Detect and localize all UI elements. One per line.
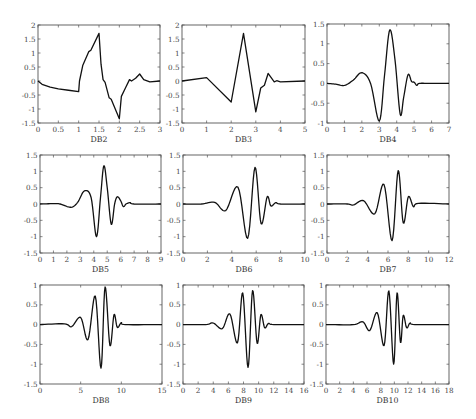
axes-frame	[182, 25, 305, 123]
y-tick-label: 0.5	[313, 183, 325, 192]
wavelet-curve	[183, 291, 304, 368]
x-tick-label: 2	[345, 255, 350, 264]
x-tick-label: 12	[403, 386, 412, 395]
x-tick-label: 12	[444, 255, 453, 264]
x-tick-label: 0	[325, 255, 330, 264]
x-tick-label: 2	[229, 125, 234, 134]
y-tick-label: 1	[33, 167, 38, 176]
y-tick-label: 2	[31, 21, 36, 30]
x-tick-label: 7	[447, 125, 452, 134]
x-tick-label: 4	[230, 255, 235, 264]
x-tick-label: 2	[205, 255, 210, 264]
x-tick-label: 2	[65, 255, 70, 264]
x-tick-label: 14	[417, 386, 427, 395]
y-tick-label: 1.5	[313, 151, 325, 160]
y-tick-label: -1	[30, 360, 37, 369]
y-tick-label: -1.5	[24, 249, 38, 258]
panel-label: DB7	[380, 265, 397, 274]
y-tick-label: 0	[319, 320, 324, 329]
y-tick-label: -1	[173, 360, 180, 369]
x-tick-label: 6	[226, 386, 231, 395]
x-tick-label: 0	[181, 386, 186, 395]
y-tick-label: -1.5	[310, 380, 324, 389]
x-tick-label: 0	[36, 125, 41, 134]
y-tick-label: -1	[173, 232, 180, 241]
x-tick-label: 10	[300, 255, 310, 264]
x-tick-label: 0	[38, 386, 43, 395]
panel-db9: 0246810121416-1.5-1-0.500.51DB9	[167, 281, 309, 406]
y-tick-label: 1.5	[169, 151, 181, 160]
y-tick-label: 0.5	[168, 63, 180, 72]
panel-db6: 0246810-1.5-1-0.500.511.5DB6	[167, 151, 310, 275]
panel-label: DB4	[380, 135, 397, 144]
x-tick-label: 3	[158, 125, 163, 134]
x-tick-label: 10	[117, 386, 127, 395]
y-tick-label: -0.5	[167, 340, 181, 349]
panel-label: DB9	[235, 396, 252, 405]
y-tick-label: 0	[176, 200, 181, 209]
x-tick-label: 6	[254, 255, 259, 264]
y-tick-label: 1	[320, 167, 325, 176]
x-tick-label: 5	[412, 125, 417, 134]
y-tick-label: -1.5	[22, 119, 36, 128]
y-tick-label: 1	[176, 281, 181, 290]
wavelet-curve	[182, 33, 305, 111]
y-tick-label: -1	[317, 232, 324, 241]
y-tick-label: 1	[320, 39, 325, 48]
y-tick-label: -1.5	[167, 380, 181, 389]
x-tick-label: 15	[157, 386, 167, 395]
y-tick-label: 0	[175, 77, 180, 86]
x-tick-label: 16	[299, 386, 309, 395]
x-tick-label: 7	[132, 255, 137, 264]
y-tick-label: 0	[33, 200, 38, 209]
wavelet-curve	[183, 167, 305, 238]
x-tick-label: 3	[78, 255, 83, 264]
x-tick-label: 2	[196, 386, 201, 395]
x-tick-label: 0	[325, 125, 330, 134]
x-tick-label: 6	[386, 255, 391, 264]
x-tick-label: 8	[278, 255, 283, 264]
wavelet-curve	[38, 33, 160, 118]
x-tick-label: 10	[424, 255, 434, 264]
x-tick-label: 8	[145, 255, 150, 264]
x-tick-label: 4	[394, 125, 399, 134]
x-tick-label: 4	[91, 255, 96, 264]
y-tick-label: -0.5	[311, 216, 325, 225]
y-tick-label: 0.5	[169, 183, 181, 192]
y-tick-label: -1	[28, 105, 35, 114]
x-tick-label: 4	[278, 125, 283, 134]
panel-label: DB3	[235, 135, 252, 144]
wavelet-curve	[40, 287, 162, 368]
y-tick-label: 0	[176, 320, 181, 329]
x-tick-label: 3	[377, 125, 382, 134]
panel-db10: 024681012141618-1.5-1-0.500.51DB10	[310, 281, 454, 406]
axes-frame	[40, 285, 162, 384]
y-tick-label: 0.5	[312, 300, 324, 309]
x-tick-label: 2.5	[134, 125, 146, 134]
y-tick-label: -1.5	[311, 249, 325, 258]
y-tick-label: 0	[320, 79, 325, 88]
x-tick-label: 5	[303, 125, 308, 134]
y-tick-label: 0.5	[26, 183, 38, 192]
y-tick-label: 0.5	[313, 59, 325, 68]
x-tick-label: 10	[390, 386, 400, 395]
y-tick-label: -0.5	[22, 91, 36, 100]
x-tick-label: 1	[204, 125, 209, 134]
y-tick-label: 1	[319, 281, 324, 290]
y-tick-label: 1	[176, 167, 181, 176]
x-tick-label: 8	[241, 386, 246, 395]
y-tick-label: 0.5	[24, 63, 36, 72]
x-tick-label: 0	[324, 386, 329, 395]
panel-db2: 00.511.522.53-1.5-1-0.500.511.52DB2	[22, 21, 163, 145]
x-tick-label: 16	[431, 386, 441, 395]
x-tick-label: 4	[211, 386, 216, 395]
y-tick-label: 0.5	[26, 300, 38, 309]
panel-db4: 01234567-1-0.500.511.5DB4	[311, 20, 452, 145]
wavelet-figure: 00.511.522.53-1.5-1-0.500.511.52DB201234…	[0, 0, 476, 419]
y-tick-label: 1	[175, 49, 180, 58]
y-tick-label: -0.5	[24, 340, 38, 349]
x-tick-label: 1.5	[93, 125, 105, 134]
panel-label: DB2	[91, 135, 108, 144]
x-tick-label: 4	[351, 386, 356, 395]
x-tick-label: 8	[406, 255, 411, 264]
